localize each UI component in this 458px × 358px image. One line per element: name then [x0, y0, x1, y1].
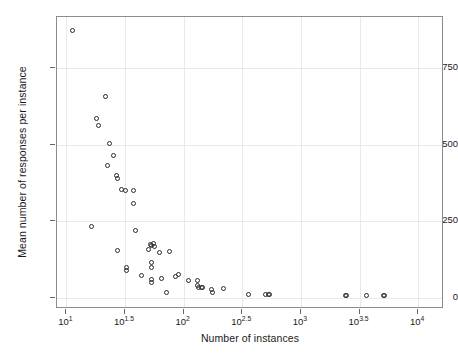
- gridline-x-1: [125, 17, 126, 307]
- scatter-plot-figure: Mean number of responses per instance Nu…: [0, 0, 458, 358]
- data-point: [111, 153, 116, 158]
- y-tick-mark-2: [50, 144, 55, 145]
- data-point: [105, 163, 110, 168]
- data-point: [94, 116, 99, 121]
- data-point: [107, 141, 112, 146]
- data-point: [123, 188, 128, 193]
- data-point: [133, 228, 138, 233]
- data-point: [382, 293, 387, 298]
- data-point: [176, 272, 181, 277]
- data-point: [131, 188, 136, 193]
- gridline-y-3: [57, 68, 442, 69]
- data-point: [152, 244, 157, 249]
- x-tick-label-4: 103: [270, 316, 330, 327]
- data-point: [124, 268, 129, 273]
- data-point: [157, 250, 162, 255]
- plot-panel: [56, 16, 443, 308]
- data-point: [195, 278, 200, 283]
- gridline-x-0: [66, 17, 67, 307]
- data-point: [149, 280, 154, 285]
- data-point: [139, 273, 144, 278]
- data-point: [210, 290, 215, 295]
- data-point: [200, 285, 205, 290]
- data-point: [344, 293, 349, 298]
- y-tick-mark-0: [50, 297, 55, 298]
- data-point: [146, 247, 151, 252]
- y-tick-mark-1: [50, 220, 55, 221]
- y-tick-mark-3: [50, 67, 55, 68]
- data-point: [167, 249, 172, 254]
- data-point: [267, 292, 272, 297]
- x-tick-mark-5: [359, 309, 360, 314]
- data-point: [70, 28, 75, 33]
- data-point: [186, 278, 191, 283]
- gridline-y-1: [57, 221, 442, 222]
- x-tick-label-6: 104: [387, 316, 447, 327]
- data-point: [221, 286, 226, 291]
- x-tick-label-5: 103.5: [329, 316, 389, 327]
- gridline-x-4: [301, 17, 302, 307]
- gridline-y-0: [57, 298, 442, 299]
- x-tick-label-3: 102.5: [211, 316, 271, 327]
- gridline-y-2: [57, 145, 442, 146]
- x-tick-mark-0: [65, 309, 66, 314]
- data-point: [96, 123, 101, 128]
- x-tick-mark-4: [300, 309, 301, 314]
- data-point: [115, 248, 120, 253]
- y-axis-title: Mean number of responses per instance: [14, 16, 30, 308]
- x-axis-title: Number of instances: [56, 332, 444, 344]
- data-point: [149, 265, 154, 270]
- data-point: [246, 292, 251, 297]
- gridline-x-3: [242, 17, 243, 307]
- x-tick-label-0: 101: [35, 316, 95, 327]
- gridline-x-2: [184, 17, 185, 307]
- data-point: [159, 276, 164, 281]
- gridline-x-5: [360, 17, 361, 307]
- x-tick-mark-6: [417, 309, 418, 314]
- x-tick-label-2: 102: [153, 316, 213, 327]
- data-point: [115, 176, 120, 181]
- data-point: [364, 293, 369, 298]
- x-tick-mark-1: [124, 309, 125, 314]
- data-point: [164, 290, 169, 295]
- x-tick-mark-3: [241, 309, 242, 314]
- gridline-x-6: [418, 17, 419, 307]
- x-tick-label-1: 101.5: [94, 316, 154, 327]
- x-tick-mark-2: [183, 309, 184, 314]
- data-point: [103, 94, 108, 99]
- data-point: [89, 224, 94, 229]
- data-point: [131, 201, 136, 206]
